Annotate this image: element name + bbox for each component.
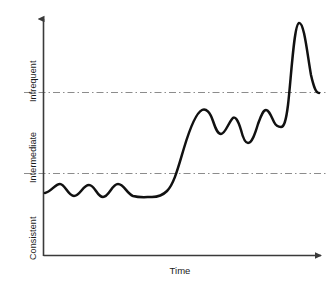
chart-figure: Infrequent Intermediate Consistent Time	[0, 0, 336, 289]
x-axis-label: Time	[140, 265, 220, 276]
chart-canvas	[0, 0, 336, 289]
y-tick-label-consistent: Consistent	[28, 216, 38, 260]
behavior-trajectory-curve	[45, 23, 319, 197]
y-tick-label-intermediate: Intermediate	[28, 132, 38, 183]
y-tick-label-infrequent: Infrequent	[28, 60, 38, 102]
